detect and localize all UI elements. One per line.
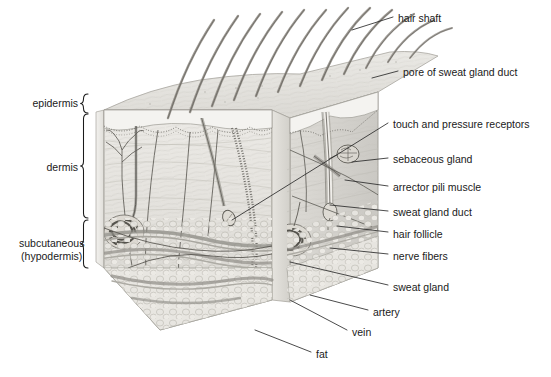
skin-block bbox=[96, 52, 438, 339]
callout-label-sebaceous-gland: sebaceous gland bbox=[393, 153, 472, 166]
layer-label-subcutaneous: subcutaneous (hypodermis) bbox=[19, 237, 84, 262]
callout-label-fat: fat bbox=[316, 348, 328, 361]
callout-label-sweat-gland: sweat gland bbox=[393, 281, 449, 294]
layer-label-dermis: dermis bbox=[46, 161, 78, 174]
callout-label-touch-and-pressure-receptors: touch and pressure receptors bbox=[393, 118, 530, 131]
callout-label-hair-follicle: hair follicle bbox=[393, 228, 443, 241]
leader-artery bbox=[310, 295, 368, 310]
callout-label-vein: vein bbox=[352, 326, 371, 339]
bracket-epidermis bbox=[80, 94, 88, 113]
layer-label-epidermis: epidermis bbox=[32, 97, 78, 110]
leader-fat bbox=[255, 330, 311, 352]
callout-label-hair-shaft: hair shaft bbox=[398, 12, 441, 25]
callout-label-arrector-pili-muscle: arrector pili muscle bbox=[393, 181, 481, 194]
bracket-dermis bbox=[80, 114, 88, 218]
leader-vein bbox=[290, 300, 347, 330]
subcutaneous-bottom-front bbox=[104, 268, 272, 330]
callout-label-nerve-fibers: nerve fibers bbox=[393, 250, 448, 263]
skin-cross-section-figure: epidermisdermissubcutaneous (hypodermis)… bbox=[0, 0, 551, 377]
callout-label-artery: artery bbox=[373, 306, 400, 319]
callout-label-pore-of-sweat-gland-duct: pore of sweat gland duct bbox=[403, 66, 517, 79]
callout-label-sweat-gland-duct: sweat gland duct bbox=[393, 206, 472, 219]
skin-block-left-edge bbox=[96, 110, 104, 268]
